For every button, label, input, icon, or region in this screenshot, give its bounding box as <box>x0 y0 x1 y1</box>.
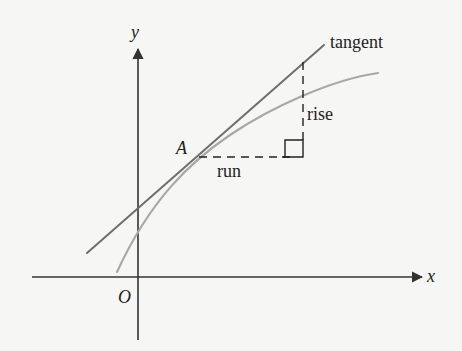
right-angle-marker <box>282 140 303 157</box>
run-label: run <box>217 161 241 181</box>
x-axis-label: x <box>426 266 435 286</box>
tangent-diagram: y x O A tangent rise run <box>0 0 462 351</box>
tangent-label: tangent <box>330 32 383 52</box>
rise-label: rise <box>307 104 333 124</box>
curve <box>117 73 378 272</box>
origin-label: O <box>118 287 131 307</box>
tangent-line <box>87 45 324 253</box>
point-a-label: A <box>175 138 188 158</box>
y-axis-label: y <box>129 22 139 42</box>
